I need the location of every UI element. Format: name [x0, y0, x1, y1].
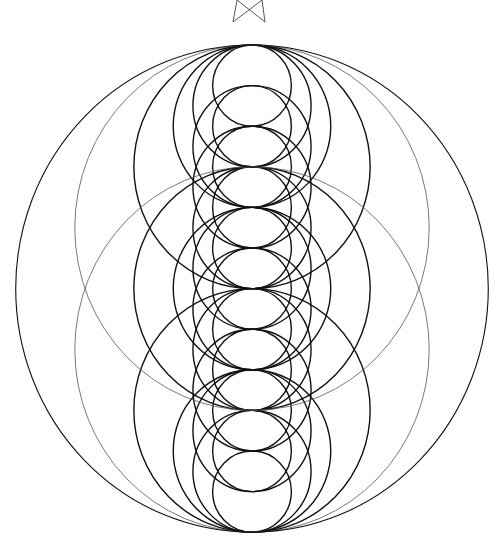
bowtie-line [233, 0, 262, 22]
circle-set [16, 45, 489, 532]
circle-8-11 [193, 370, 311, 492]
circle-4-7 [193, 207, 311, 329]
circle-9-12 [193, 410, 311, 532]
bowtie-line [262, 0, 265, 22]
circle-7-10 [193, 329, 311, 451]
circle-3-6 [193, 167, 311, 289]
circle-5-8 [193, 248, 311, 370]
circle-3-12 [75, 167, 429, 532]
bowtie-mark-icon [233, 0, 265, 22]
tangent-circles-figure [0, 0, 499, 543]
circle-0-9 [75, 45, 429, 410]
circle-6-9 [193, 289, 311, 411]
circle-1-4 [193, 86, 311, 208]
circle-0-3 [193, 45, 311, 167]
bowtie-line [237, 0, 265, 22]
bowtie-line [233, 0, 237, 22]
circle-2-5 [193, 126, 311, 248]
